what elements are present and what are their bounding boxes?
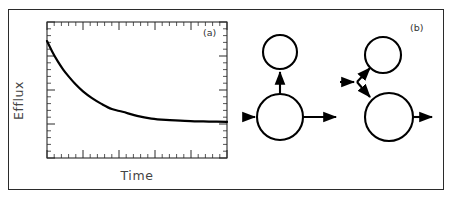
branch-down-arrow-right-diagram: [357, 82, 370, 97]
figure-root: Efflux Time (a) (b): [0, 0, 452, 200]
y-axis-label: Efflux: [11, 66, 26, 136]
upper-small-circle-right-diagram: [365, 37, 401, 73]
panel-label-b: (b): [410, 22, 423, 33]
panel-label-a: (a): [203, 27, 216, 38]
panel-a-plot: [47, 22, 227, 158]
upper-small-circle-left-diagram: [263, 35, 297, 69]
branch-up-arrow-right-diagram: [357, 68, 370, 82]
panel-b-diagram-left: [243, 35, 336, 140]
lower-large-circle-right-diagram: [365, 93, 413, 141]
figure-vector-layer: [0, 0, 452, 200]
lower-large-circle-left-diagram: [257, 94, 303, 140]
x-axis-label: Time: [87, 168, 187, 183]
panel-b-diagram-right: [340, 37, 432, 141]
plot-box-border: [47, 22, 227, 158]
